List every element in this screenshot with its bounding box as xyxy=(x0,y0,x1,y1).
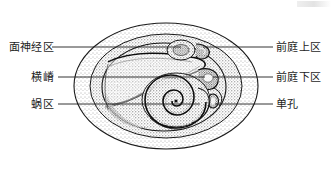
anatomical-figure: 面神经区 横嵴 蜗区 前庭上区 前庭下区 单孔 xyxy=(0,0,334,170)
scan-artifact xyxy=(297,1,331,7)
label-cochlear-area: 蜗区 xyxy=(2,98,54,110)
label-singular-foramen: 单孔 xyxy=(276,98,334,110)
label-facial-nerve-area: 面神经区 xyxy=(2,41,54,53)
label-inferior-vestibular-area: 前庭下区 xyxy=(276,71,334,83)
label-transverse-crest: 横嵴 xyxy=(2,71,54,83)
inner-ear-canal-diagram xyxy=(0,0,334,170)
label-superior-vestibular-area: 前庭上区 xyxy=(276,41,334,53)
